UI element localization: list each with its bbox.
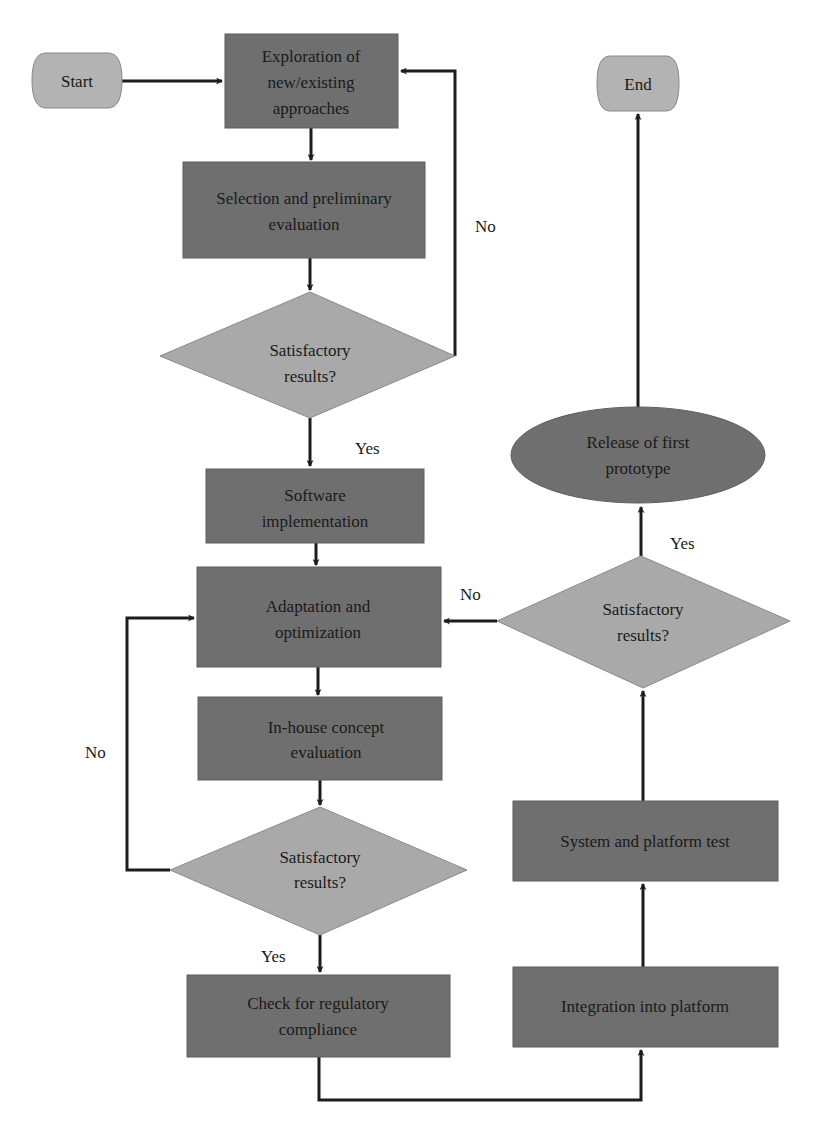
software-line-2: implementation (262, 512, 369, 531)
start-label: Start (61, 72, 93, 91)
decision-2: Satisfactory results? (170, 807, 467, 935)
process-inhouse: In-house concept evaluation (198, 697, 442, 780)
decision-3: Satisfactory results? (497, 556, 790, 688)
decision-1: Satisfactory results? (160, 292, 455, 418)
process-adaptation: Adaptation and optimization (197, 567, 441, 667)
end-label: End (624, 75, 652, 94)
process-systemtest: System and platform test (513, 801, 778, 881)
decision3-line-2: results? (617, 626, 669, 645)
edge-decision2-no-loop (127, 618, 194, 870)
flowchart-canvas: Start End Exploration of new/existing ap… (0, 0, 825, 1138)
end-terminal: End (597, 56, 679, 111)
adaptation-line-2: optimization (275, 623, 361, 642)
decision3-yes-label: Yes (670, 534, 695, 553)
integration-label: Integration into platform (561, 997, 729, 1016)
decision2-line-2: results? (294, 873, 346, 892)
inhouse-line-1: In-house concept (268, 718, 385, 737)
decision1-line-2: results? (284, 367, 336, 386)
start-terminal: Start (32, 53, 122, 108)
process-selection: Selection and preliminary evaluation (183, 162, 425, 258)
decision3-line-1: Satisfactory (602, 600, 684, 619)
adaptation-line-1: Adaptation and (266, 597, 371, 616)
regulatory-line-1: Check for regulatory (247, 994, 389, 1013)
selection-line-2: evaluation (269, 215, 340, 234)
decision1-line-1: Satisfactory (269, 341, 351, 360)
software-line-1: Software (284, 486, 345, 505)
decision1-no-label: No (475, 217, 496, 236)
process-regulatory: Check for regulatory compliance (187, 975, 450, 1057)
process-software: Software implementation (206, 469, 424, 543)
exploration-line-1: Exploration of (262, 47, 361, 66)
release-line-2: prototype (605, 459, 670, 478)
process-exploration: Exploration of new/existing approaches (225, 34, 398, 128)
decision2-no-label: No (85, 743, 106, 762)
exploration-line-2: new/existing (268, 73, 355, 92)
selection-line-1: Selection and preliminary (216, 189, 392, 208)
process-integration: Integration into platform (513, 967, 778, 1047)
systemtest-label: System and platform test (560, 832, 730, 851)
exploration-line-3: approaches (273, 99, 349, 118)
decision1-yes-label: Yes (355, 439, 380, 458)
decision3-no-label: No (460, 585, 481, 604)
decision2-yes-label: Yes (261, 947, 286, 966)
decision2-line-1: Satisfactory (279, 848, 361, 867)
release-ellipse: Release of first prototype (511, 407, 765, 503)
release-line-1: Release of first (587, 433, 690, 452)
inhouse-line-2: evaluation (291, 743, 362, 762)
regulatory-line-2: compliance (279, 1020, 357, 1039)
